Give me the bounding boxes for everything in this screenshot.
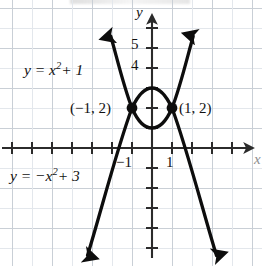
x-tick-label-1: 1 — [166, 155, 174, 170]
point-label-left: (−1, 2) — [70, 101, 111, 116]
y-tick-label-4: 4 — [131, 58, 139, 73]
y-axis-label: y — [136, 5, 143, 20]
equation-down-lead: y = −x — [10, 167, 52, 184]
graph-figure: y x 5 4 −1 1 y = x2+ 1 y = −x2+ 3 (−1, 2… — [0, 0, 262, 266]
y-tick-label-5: 5 — [131, 37, 139, 52]
x-axis-label: x — [254, 152, 261, 167]
intersection-dot-left — [127, 103, 138, 114]
equation-upward-parabola: y = x2+ 1 — [24, 62, 83, 78]
equation-up-lead: y = x — [24, 61, 56, 78]
equation-downward-parabola: y = −x2+ 3 — [10, 168, 80, 184]
equation-down-tail: + 3 — [58, 167, 80, 184]
x-tick-label-neg1: −1 — [116, 155, 132, 170]
point-label-right: (1, 2) — [179, 101, 212, 116]
equation-up-tail: + 1 — [61, 61, 83, 78]
intersection-dot-right — [167, 103, 178, 114]
